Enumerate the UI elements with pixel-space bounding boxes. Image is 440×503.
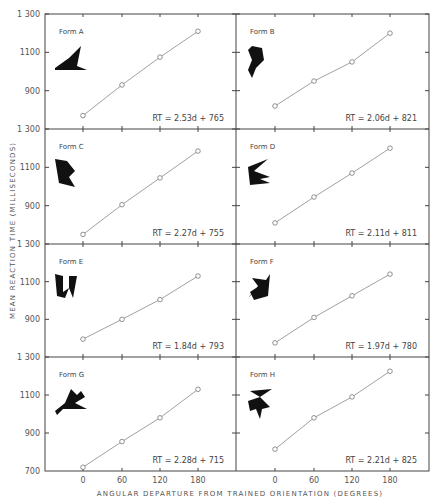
svg-text:900: 900 — [25, 429, 40, 438]
svg-text:Form D: Form D — [250, 143, 275, 151]
svg-text:RT = 1.97d + 780: RT = 1.97d + 780 — [345, 342, 417, 351]
svg-text:RT = 2.28d + 715: RT = 2.28d + 715 — [152, 456, 224, 465]
svg-text:1100: 1100 — [20, 278, 40, 287]
svg-text:RT = 2.06d + 821: RT = 2.06d + 821 — [345, 114, 417, 123]
panel-form-h: Form HRT = 2.21d + 825 — [248, 369, 417, 465]
panel-form-e: Form ERT = 1.84d + 793 — [55, 258, 224, 351]
svg-text:Form C: Form C — [59, 143, 84, 151]
svg-text:Form H: Form H — [250, 371, 275, 379]
svg-text:1100: 1100 — [20, 391, 40, 400]
form-shape-icon — [55, 46, 87, 70]
x-axis-label: ANGULAR DEPARTURE FROM TRAINED ORIENTATI… — [40, 490, 440, 498]
svg-text:180: 180 — [190, 476, 205, 485]
form-shape-icon — [248, 46, 264, 78]
svg-text:1 300: 1 300 — [17, 10, 40, 19]
svg-text:Form G: Form G — [59, 371, 84, 379]
panel-form-c: Form CRT = 2.27d + 755 — [55, 143, 224, 238]
svg-text:900: 900 — [25, 202, 40, 211]
panel-form-b: Form BRT = 2.06d + 821 — [248, 28, 417, 123]
svg-text:120: 120 — [152, 476, 167, 485]
svg-text:Form A: Form A — [59, 28, 84, 36]
form-shape-icon — [55, 389, 87, 415]
form-shape-icon — [248, 159, 270, 185]
svg-text:1 300: 1 300 — [17, 240, 40, 249]
panel-form-g: Form GRT = 2.28d + 715 — [55, 371, 224, 470]
y-axis-label: MEAN REACTION TIME (MILLISECONDS) — [9, 149, 17, 319]
svg-text:RT = 2.27d + 755: RT = 2.27d + 755 — [152, 229, 224, 238]
svg-text:RT = 2.53d + 765: RT = 2.53d + 765 — [152, 114, 224, 123]
svg-text:1 300: 1 300 — [17, 353, 40, 362]
svg-text:1 300: 1 300 — [17, 125, 40, 134]
form-shape-icon — [248, 389, 272, 419]
form-shape-icon — [248, 274, 270, 300]
svg-text:0: 0 — [80, 476, 85, 485]
svg-text:Form B: Form B — [250, 28, 275, 36]
svg-text:700: 700 — [25, 467, 40, 476]
svg-text:120: 120 — [344, 476, 359, 485]
svg-text:1100: 1100 — [20, 163, 40, 172]
svg-text:900: 900 — [25, 87, 40, 96]
panel-form-d: Form DRT = 2.11d + 811 — [248, 143, 417, 238]
svg-text:RT = 1.84d + 793: RT = 1.84d + 793 — [152, 342, 224, 351]
svg-text:0: 0 — [272, 476, 277, 485]
svg-text:60: 60 — [117, 476, 127, 485]
svg-text:900: 900 — [25, 315, 40, 324]
svg-text:RT = 2.11d + 811: RT = 2.11d + 811 — [345, 229, 417, 238]
svg-text:Form E: Form E — [59, 258, 83, 266]
svg-text:180: 180 — [382, 476, 397, 485]
svg-text:RT = 2.21d + 825: RT = 2.21d + 825 — [345, 456, 417, 465]
svg-text:60: 60 — [309, 476, 319, 485]
svg-text:1100: 1100 — [20, 48, 40, 57]
panel-form-f: Form FRT = 1.97d + 780 — [248, 258, 417, 351]
form-shape-icon — [55, 274, 77, 298]
svg-text:Form F: Form F — [250, 258, 274, 266]
form-shape-icon — [55, 159, 75, 187]
chart-figure: 1 30011009001 30011009001 30011009001 30… — [0, 0, 440, 503]
panel-form-a: Form ART = 2.53d + 765 — [55, 28, 224, 123]
